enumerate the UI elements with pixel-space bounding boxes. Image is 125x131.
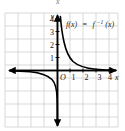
curve-label-equals: = bbox=[82, 20, 87, 29]
x-tick-label-4: 4 bbox=[108, 73, 112, 82]
origin-label: O bbox=[60, 73, 66, 82]
curve-label-lhs: f(x) bbox=[66, 20, 77, 29]
y-tick-label-1: 1 bbox=[50, 54, 54, 63]
hyperbola-branch-negative bbox=[10, 71, 58, 124]
x-axis-label: x bbox=[114, 73, 119, 82]
figure-container: x bbox=[0, 0, 125, 131]
x-tick-label-3: 3 bbox=[98, 73, 102, 82]
curve-label-rhs-exponent: −1 bbox=[97, 19, 104, 25]
svg-text:f(x) = f: f(x) = f −1 (x) bbox=[66, 17, 114, 29]
coordinate-graph: O 1 2 3 4 1 2 3 4 x y f(x) = f −1 (x) bbox=[0, 0, 125, 131]
curve-label-rhs-arg: (x) bbox=[105, 20, 114, 29]
curve-equation-label: f(x) = f −1 (x) bbox=[66, 17, 114, 29]
y-tick-label-3: 3 bbox=[50, 28, 54, 37]
y-tick-label-2: 2 bbox=[50, 41, 54, 50]
x-tick-label-1: 1 bbox=[72, 73, 76, 82]
y-axis-label: y bbox=[50, 12, 55, 21]
x-tick-label-2: 2 bbox=[85, 73, 89, 82]
